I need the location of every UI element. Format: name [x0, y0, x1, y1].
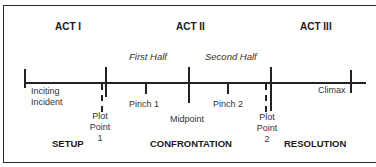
start-tick [24, 69, 26, 88]
plot-point-1-marker [101, 84, 103, 112]
pinch-1-label: Pinch 1 [129, 99, 159, 110]
act-1-2-divider [105, 67, 107, 97]
plot-point-2-line1: Plot [255, 112, 279, 123]
climax-label: Climax [318, 85, 346, 96]
pinch-1-tick [145, 82, 147, 94]
inciting-incident-line1: Inciting [31, 86, 63, 97]
act-3-label: ACT III [300, 21, 332, 32]
plot-point-1-line1: Plot [88, 111, 112, 122]
midpoint-label: Midpoint [170, 114, 204, 125]
confrontation-label: CONFRONTATION [150, 138, 232, 149]
second-half-label: Second Half [205, 51, 257, 62]
inciting-incident-label: Inciting Incident [31, 86, 63, 108]
act-1-label: ACT I [55, 21, 81, 32]
act-2-3-divider [270, 67, 272, 111]
plot-point-1-line3: 1 [88, 133, 112, 144]
resolution-label: RESOLUTION [284, 138, 346, 149]
pinch-2-label: Pinch 2 [213, 99, 243, 110]
act-2-label: ACT II [176, 21, 205, 32]
pinch-2-tick [227, 82, 229, 94]
inciting-incident-line2: Incident [31, 97, 63, 108]
plot-point-2-marker [265, 84, 267, 112]
midpoint-tick [188, 67, 190, 103]
setup-label: SETUP [52, 138, 84, 149]
plot-point-1-line2: Point [88, 122, 112, 133]
first-half-label: First Half [129, 51, 167, 62]
plot-point-1-label: Plot Point 1 [88, 111, 112, 144]
plot-point-2-label: Plot Point 2 [255, 112, 279, 145]
plot-point-2-line3: 2 [255, 134, 279, 145]
plot-point-2-line2: Point [255, 123, 279, 134]
end-tick [350, 70, 352, 93]
